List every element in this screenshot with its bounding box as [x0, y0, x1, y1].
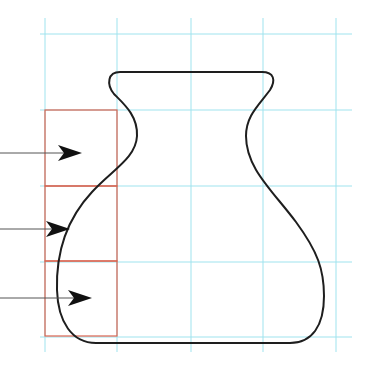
vase-outline: [57, 72, 324, 343]
diagram-canvas: [0, 0, 368, 375]
grid-lines: [40, 18, 352, 352]
red-box: [45, 110, 117, 186]
red-boxes: [45, 110, 117, 336]
vase-diagram: [0, 0, 368, 375]
red-box: [45, 186, 117, 261]
arrows: [0, 145, 92, 306]
